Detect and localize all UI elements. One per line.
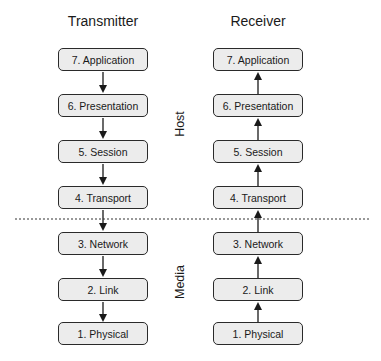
transmitter-layer-6: 6. Presentation (58, 94, 148, 117)
transmitter-layer-4: 4. Transport (58, 186, 148, 209)
receiver-layer-4: 4. Transport (213, 186, 303, 209)
transmitter-layer-1: 1. Physical (58, 322, 148, 345)
receiver-layer-7: 7. Application (213, 48, 303, 71)
media-label: Media (173, 252, 187, 312)
receiver-layer-3: 3. Network (213, 232, 303, 255)
transmitter-layer-3: 3. Network (58, 232, 148, 255)
receiver-layer-5: 5. Session (213, 140, 303, 163)
receiver-layer-6: 6. Presentation (213, 94, 303, 117)
transmitter-layer-7: 7. Application (58, 48, 148, 71)
transmitter-layer-2: 2. Link (58, 278, 148, 301)
receiver-layer-2: 2. Link (213, 278, 303, 301)
transmitter-layer-5: 5. Session (58, 140, 148, 163)
receiver-layer-1: 1. Physical (213, 322, 303, 345)
host-label: Host (173, 94, 187, 154)
